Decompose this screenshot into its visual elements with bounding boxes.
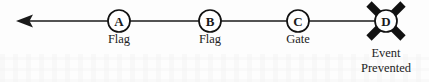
node-b-caption: Flag (199, 32, 222, 46)
node-d[interactable]: D Event Prevented (361, 10, 412, 75)
diagram-canvas: A Flag B Flag C Gate D Event Prevented (0, 0, 429, 82)
node-a-caption: Flag (108, 32, 131, 46)
node-c-letter: C (293, 14, 302, 29)
node-d-caption-line2: Prevented (361, 61, 412, 75)
node-a-letter: A (114, 14, 124, 29)
node-c[interactable]: C Gate (286, 10, 310, 46)
node-d-caption-line1: Event (371, 46, 401, 60)
node-b[interactable]: B Flag (199, 10, 222, 46)
node-c-caption: Gate (286, 32, 310, 46)
timeline-diagram: A Flag B Flag C Gate D Event Prevented (0, 0, 429, 82)
node-b-letter: B (206, 14, 215, 29)
node-a[interactable]: A Flag (108, 10, 131, 46)
node-d-letter: D (381, 14, 390, 29)
